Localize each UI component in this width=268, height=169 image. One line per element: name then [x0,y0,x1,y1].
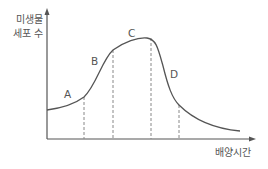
phase-label-a: A [64,89,71,100]
phase-label-c: C [128,28,135,39]
y-axis-label-line2: 세포 수 [13,29,43,39]
growth-curve-diagram: 미생물 세포 수 A B C D 배양시간 [0,0,268,169]
phase-label-d: D [170,69,178,80]
phase-label-b: B [91,56,98,67]
x-axis-label: 배양시간 [215,148,251,158]
y-axis-arrow-icon [45,8,50,15]
x-axis-arrow-icon [249,137,256,142]
growth-curve-svg [0,0,268,169]
growth-curve [47,38,240,131]
y-axis-label-line1: 미생물 [16,15,43,25]
